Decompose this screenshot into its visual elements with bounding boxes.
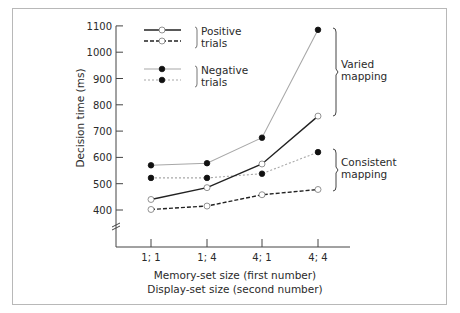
legend-marker — [159, 77, 165, 83]
mapping-label-line1: Consistent — [341, 156, 397, 168]
y-tick-label: 700 — [93, 126, 112, 137]
filled-circle-marker — [315, 149, 321, 155]
x-tick-label: 4; 1 — [252, 252, 271, 263]
legend-marker — [159, 27, 165, 33]
x-axis-title-line2: Display-set size (second number) — [147, 283, 322, 295]
mapping-label-line2: mapping — [341, 70, 387, 82]
y-tick-label: 800 — [93, 100, 112, 111]
y-tick-label: 1100 — [87, 21, 112, 32]
filled-circle-marker — [259, 135, 265, 141]
legend-marker — [159, 38, 165, 44]
filled-circle-marker — [148, 175, 154, 181]
open-circle-marker — [204, 203, 210, 209]
open-circle-marker — [204, 185, 210, 191]
legend-label-line1: Positive — [201, 25, 241, 37]
filled-circle-marker — [315, 27, 321, 33]
y-tick-label: 400 — [93, 205, 112, 216]
series-line-positive-consistent — [151, 189, 318, 209]
filled-circle-marker — [204, 160, 210, 166]
decision-time-chart: 400500600700800900100011001; 11; 44; 14;… — [0, 0, 460, 313]
series-line-negative-varied — [151, 30, 318, 165]
x-tick-label: 1; 4 — [197, 252, 216, 263]
y-tick-label: 600 — [93, 152, 112, 163]
y-tick-label: 1000 — [87, 47, 112, 58]
x-tick-label: 4; 4 — [308, 252, 327, 263]
x-axis-title-line1: Memory-set size (first number) — [154, 269, 316, 281]
filled-circle-marker — [204, 175, 210, 181]
y-axis-title: Decision time (ms) — [74, 69, 86, 168]
filled-circle-marker — [259, 171, 265, 177]
mapping-label-line2: mapping — [341, 168, 387, 180]
legend-label-line2: trials — [201, 76, 227, 88]
filled-circle-marker — [148, 162, 154, 168]
legend-label-line1: Negative — [201, 64, 248, 76]
series-line-negative-consistent — [151, 152, 318, 178]
legend-bracket — [195, 66, 197, 87]
open-circle-marker — [259, 192, 265, 198]
open-circle-marker — [315, 186, 321, 192]
y-tick-label: 500 — [93, 179, 112, 190]
open-circle-marker — [148, 206, 154, 212]
mapping-bracket — [333, 28, 338, 116]
open-circle-marker — [148, 196, 154, 202]
legend-bracket — [195, 27, 197, 48]
legend-label-line2: trials — [201, 37, 227, 49]
open-circle-marker — [259, 161, 265, 167]
mapping-label-line1: Varied — [341, 58, 374, 70]
x-tick-label: 1; 1 — [141, 252, 160, 263]
y-tick-label: 900 — [93, 74, 112, 85]
series-line-positive-varied — [151, 116, 318, 199]
open-circle-marker — [315, 113, 321, 119]
mapping-bracket — [333, 149, 338, 191]
legend-marker — [159, 66, 165, 72]
